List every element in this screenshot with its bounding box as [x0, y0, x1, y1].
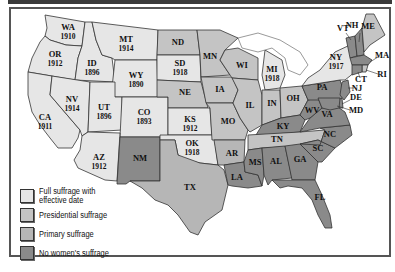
legend-label: Primary suffrage: [39, 230, 94, 239]
state-year-NY: 1917: [329, 62, 344, 71]
state-label-AR: AR: [226, 148, 239, 158]
state-label-ME: ME: [361, 21, 375, 31]
state-label-NE: NE: [179, 87, 191, 97]
state-label-WV: WV: [305, 105, 321, 115]
state-label-KY: KY: [277, 121, 290, 131]
map-legend: Full suffrage with effective date Presid…: [20, 187, 130, 263]
state-label-OR: OR: [49, 49, 63, 59]
state-label-MS: MS: [249, 157, 262, 167]
state-label-OH: OH: [286, 93, 300, 103]
state-label-MI: MI: [266, 64, 278, 74]
state-label-CO: CO: [138, 107, 151, 117]
state-year-CO: 1893: [137, 117, 152, 126]
legend-swatch-full: [20, 189, 34, 203]
state-year-KS: 1912: [183, 124, 198, 133]
state-year-SD: 1918: [173, 68, 188, 77]
legend-swatch-none: [20, 246, 34, 260]
legend-label: No women's suffrage: [39, 249, 109, 258]
state-label-AL: AL: [270, 156, 282, 166]
state-RI[interactable]: [362, 65, 368, 72]
state-year-OR: 1912: [48, 59, 63, 68]
state-label-NV: NV: [66, 94, 79, 104]
legend-item-none: No women's suffrage: [20, 244, 130, 262]
state-label-NC: NC: [324, 129, 336, 139]
legend-item-presidential: Presidential suffrage: [20, 206, 130, 224]
state-year-MT: 1914: [119, 44, 134, 53]
state-FL[interactable]: [272, 180, 332, 228]
state-label-WI: WI: [236, 60, 249, 70]
state-label-OK: OK: [185, 138, 199, 148]
state-year-OK: 1918: [185, 148, 200, 157]
legend-label: Full suffrage with effective date: [39, 187, 116, 205]
state-label-CA: CA: [39, 112, 52, 122]
state-year-WA: 1910: [61, 32, 76, 41]
state-label-SD: SD: [175, 58, 186, 68]
state-label-VA: VA: [321, 109, 333, 119]
legend-swatch-primary: [20, 227, 34, 241]
state-label-IL: IL: [246, 100, 255, 110]
state-year-NV: 1914: [65, 104, 80, 113]
state-label-PA: PA: [317, 82, 329, 92]
state-year-CA: 1911: [38, 122, 53, 131]
state-label-SC: SC: [313, 143, 324, 153]
state-label-AZ: AZ: [93, 152, 105, 162]
state-label-TN: TN: [271, 134, 284, 144]
state-NJ[interactable]: [340, 80, 350, 100]
state-label-FL: FL: [315, 192, 326, 202]
state-year-WY: 1890: [129, 80, 144, 89]
legend-item-primary: Primary suffrage: [20, 225, 130, 243]
state-year-MI: 1918: [265, 74, 280, 83]
state-label-TX: TX: [184, 182, 197, 192]
state-label-IA: IA: [215, 84, 225, 94]
state-label-WA: WA: [61, 22, 76, 32]
state-label-RI: RI: [377, 69, 387, 79]
state-label-UT: UT: [98, 102, 110, 112]
state-label-NM: NM: [133, 153, 147, 163]
legend-item-full: Full suffrage with effective date: [20, 187, 130, 205]
state-label-KS: KS: [184, 114, 196, 124]
state-label-NY: NY: [330, 52, 342, 62]
state-label-LA: LA: [231, 172, 244, 182]
state-year-ID: 1896: [85, 68, 100, 77]
state-year-AZ: 1912: [92, 162, 107, 171]
state-label-MD: MD: [349, 105, 363, 115]
state-label-NH: NH: [346, 20, 359, 30]
state-label-ID: ID: [87, 58, 96, 68]
state-label-MN: MN: [203, 51, 218, 61]
state-label-WY: WY: [129, 70, 144, 80]
state-ME[interactable]: [362, 14, 385, 52]
state-label-GA: GA: [294, 154, 308, 164]
state-label-IN: IN: [267, 98, 277, 108]
legend-label: Presidential suffrage: [39, 211, 107, 220]
legend-swatch-presidential: [20, 208, 34, 222]
state-label-MO: MO: [221, 116, 236, 126]
state-label-MA: MA: [375, 50, 390, 60]
state-label-DE: DE: [350, 92, 362, 102]
state-year-UT: 1896: [97, 112, 112, 121]
state-label-MT: MT: [119, 34, 133, 44]
state-label-ND: ND: [172, 37, 184, 47]
